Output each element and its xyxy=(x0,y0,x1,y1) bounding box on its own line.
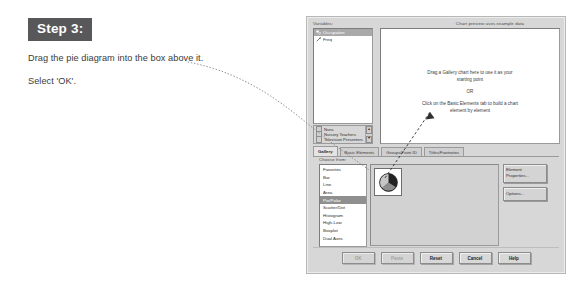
instruction-column: Step 3: Drag the pie diagram into the bo… xyxy=(28,18,258,87)
gallery-item-bar[interactable]: Bar xyxy=(320,174,366,182)
scroll-down-arrow-icon[interactable]: ▼ xyxy=(366,136,372,144)
tab-label: Titles/Footnotes xyxy=(429,150,459,155)
variables-label: Variables: xyxy=(313,22,333,26)
gallery-item-histogram[interactable]: Histogram xyxy=(320,212,366,220)
help-button[interactable]: Help xyxy=(498,252,531,264)
scale-variable-icon xyxy=(316,37,321,42)
category-values-list[interactable]: Nuns Nursery Teachers Television Present… xyxy=(313,125,373,144)
variable-name: Occupation xyxy=(323,30,345,35)
gallery-item-boxplot[interactable]: Boxplot xyxy=(320,227,366,235)
tab-gallery[interactable]: Gallery xyxy=(313,146,338,156)
variable-name: Freq xyxy=(323,37,332,42)
gallery-item-favorites[interactable]: Favorites xyxy=(320,166,366,174)
tutorial-figure: Step 3: Drag the pie diagram into the bo… xyxy=(0,0,574,282)
preview-hint-line-1: Drag a Gallery chart here to use it as y… xyxy=(381,69,559,76)
tab-label: Gallery xyxy=(318,149,333,154)
pie-chart-thumbnail[interactable] xyxy=(374,168,402,196)
category-value-label: Television Presenters xyxy=(324,137,363,142)
preview-hint-line-2: starting point xyxy=(381,76,559,83)
chart-builder-dialog: Variables: Occupation Freq xyxy=(306,16,566,274)
variables-list[interactable]: Occupation Freq xyxy=(313,28,373,124)
paste-button[interactable]: Paste xyxy=(381,252,414,264)
chart-preview-label: Chart preview uses example data xyxy=(435,22,545,26)
gallery-item-area[interactable]: Area xyxy=(320,189,366,197)
nominal-variable-icon xyxy=(316,30,321,35)
category-value-row[interactable]: Television Presenters xyxy=(314,137,365,142)
chart-preview-canvas[interactable]: Drag a Gallery chart here to use it as y… xyxy=(380,28,560,144)
preview-hint-line-4: element by element xyxy=(381,107,559,114)
options-button[interactable]: Options... xyxy=(503,187,547,201)
gallery-item-pie-polar[interactable]: Pie/Polar xyxy=(320,196,366,204)
instruction-line-1: Drag the pie diagram into the box above … xyxy=(28,52,258,64)
ok-button[interactable]: OK xyxy=(342,252,375,264)
reset-button[interactable]: Reset xyxy=(420,252,453,264)
gallery-chart-type-list[interactable]: Favorites Bar Line Area Pie/Polar Scatte… xyxy=(319,164,367,247)
gallery-item-scatter-dot[interactable]: Scatter/Dot xyxy=(320,204,366,212)
gallery-thumbnail-panel xyxy=(370,164,499,246)
category-swatch-icon xyxy=(316,136,323,143)
tabs-divider xyxy=(313,156,559,157)
dialog-top-section: Variables: Occupation Freq xyxy=(307,17,565,145)
gallery-item-dual-axes[interactable]: Dual Axes xyxy=(320,234,366,242)
gallery-item-high-low[interactable]: High-Low xyxy=(320,219,366,227)
variable-item-freq[interactable]: Freq xyxy=(314,36,372,43)
variable-item-occupation[interactable]: Occupation xyxy=(314,29,372,36)
tab-label: Basic Elements xyxy=(345,150,375,155)
tab-label: Groups/Point ID xyxy=(386,150,417,155)
scroll-up-arrow-icon[interactable]: ▲ xyxy=(366,126,372,134)
element-properties-button[interactable]: Element Properties... xyxy=(503,164,547,183)
preview-hint-line-3: Click on the Basic Elements tab to build… xyxy=(381,100,559,107)
dialog-button-bar: OK Paste Reset Cancel Help xyxy=(313,251,559,265)
choose-from-label: Choose from: xyxy=(319,158,347,162)
instruction-line-2: Select 'OK'. xyxy=(28,75,258,87)
gallery-item-line[interactable]: Line xyxy=(320,181,366,189)
chart-preview-hint: Drag a Gallery chart here to use it as y… xyxy=(381,69,559,114)
values-scrollbar[interactable]: ▲ ▼ xyxy=(365,126,372,143)
cancel-button[interactable]: Cancel xyxy=(459,252,492,264)
button-bar-divider xyxy=(313,247,559,248)
step-badge: Step 3: xyxy=(28,18,92,41)
pie-chart-icon xyxy=(378,172,399,193)
category-values-items: Nuns Nursery Teachers Television Present… xyxy=(314,126,365,143)
preview-hint-or: OR xyxy=(381,88,559,95)
